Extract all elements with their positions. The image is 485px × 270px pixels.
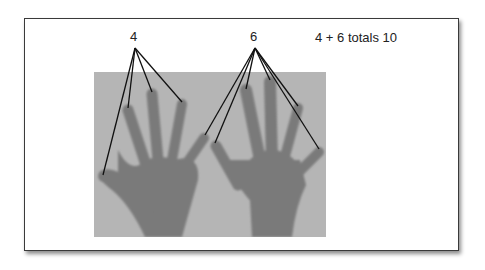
right-hand-count-label: 6 (250, 30, 257, 44)
sum-caption: 4 + 6 totals 10 (315, 31, 397, 45)
left-hand-count-label: 4 (130, 30, 137, 44)
hands-photo-illustration (0, 0, 485, 270)
